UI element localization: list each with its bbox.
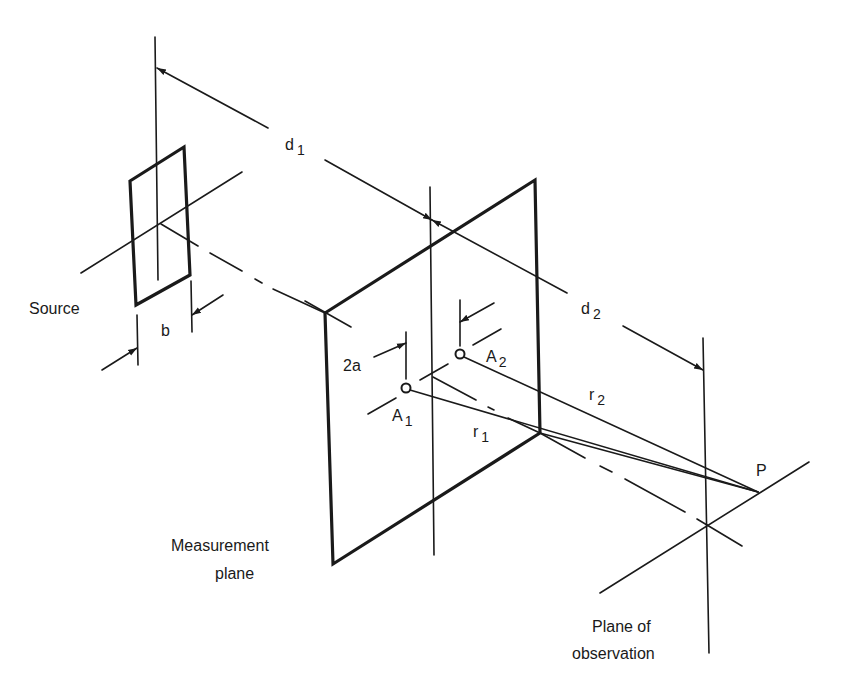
d2-label: d2 bbox=[581, 300, 601, 322]
a2-label: A2 bbox=[486, 348, 507, 370]
optical-axis-segment-1 bbox=[161, 224, 325, 313]
2a-arrow-a2 bbox=[460, 303, 494, 322]
source-assembly bbox=[81, 37, 242, 370]
aperture-axis-a2 bbox=[473, 329, 501, 345]
point-p-label: P bbox=[756, 462, 767, 479]
b-label: b bbox=[161, 322, 170, 339]
measurement-plane-label-line1: Measurement bbox=[171, 537, 269, 554]
d1-arrow-left bbox=[157, 68, 268, 128]
d2-arrow-left bbox=[432, 220, 567, 293]
observation-plane bbox=[600, 338, 809, 653]
observation-axis-tail bbox=[707, 525, 742, 546]
d2-arrow-right bbox=[623, 326, 703, 370]
aperture-a1-icon bbox=[402, 384, 411, 393]
observation-vertical-axis bbox=[703, 338, 709, 653]
b-extension-left bbox=[137, 315, 138, 365]
observation-plane-label-line2: observation bbox=[572, 645, 655, 662]
optical-axis-segment-3 bbox=[600, 466, 707, 525]
2a-label: 2a bbox=[343, 357, 361, 374]
b-extension-right bbox=[191, 281, 192, 332]
measurement-plane-label-line2: plane bbox=[215, 565, 254, 582]
b-arrow-right bbox=[192, 295, 223, 315]
b-arrow-left bbox=[102, 348, 137, 370]
measurement-corner-tail bbox=[540, 433, 585, 458]
observation-plane-label-line1: Plane of bbox=[592, 618, 651, 635]
d1-arrow-right bbox=[325, 160, 432, 220]
aperture-a2-icon bbox=[456, 350, 465, 359]
2a-arrow-a1 bbox=[374, 343, 406, 357]
source-label: Source bbox=[29, 300, 80, 317]
r2-label: r2 bbox=[589, 386, 605, 408]
measurement-plane bbox=[305, 180, 540, 564]
d1-label: d1 bbox=[285, 136, 305, 158]
diagram-canvas: Source b d1 d2 2a A1 A2 r1 r2 P Measurem… bbox=[0, 0, 853, 698]
source-rectangle bbox=[130, 147, 190, 305]
r1-label: r1 bbox=[473, 423, 489, 445]
source-vertical-axis bbox=[155, 37, 158, 280]
measurement-left-tick bbox=[305, 301, 351, 327]
a1-label: A1 bbox=[392, 407, 413, 429]
